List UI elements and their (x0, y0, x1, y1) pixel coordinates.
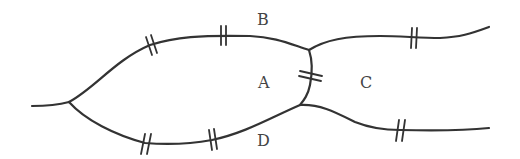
river-upper-branch (69, 36, 309, 102)
river-left-tail (32, 102, 69, 106)
region-label-d: D (257, 133, 270, 149)
region-label-a: A (258, 75, 270, 91)
river-upper-right (309, 27, 489, 50)
river-lower-right (300, 105, 489, 130)
konigsberg-diagram: B A C D (0, 0, 520, 159)
region-label-c: C (360, 75, 372, 91)
region-label-b: B (257, 12, 269, 28)
